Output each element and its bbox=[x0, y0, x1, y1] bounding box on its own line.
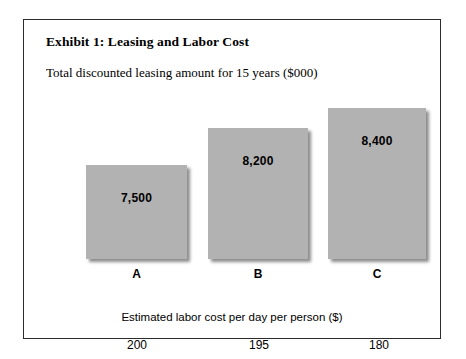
axis-value-c: 180 bbox=[334, 338, 424, 352]
axis-caption: Estimated labor cost per day per person … bbox=[24, 311, 440, 323]
bar-c: 8,400 bbox=[328, 108, 426, 259]
axis-value-a: 200 bbox=[92, 338, 182, 352]
exhibit-frame: Exhibit 1: Leasing and Labor Cost Total … bbox=[23, 19, 441, 339]
bar-value-a: 7,500 bbox=[86, 191, 187, 205]
bar-b: 8,200 bbox=[208, 128, 308, 259]
bar-chart: 7,500 A 8,200 B 8,400 C bbox=[24, 20, 440, 338]
bar-category-b: B bbox=[208, 267, 308, 281]
bar-value-c: 8,400 bbox=[328, 134, 426, 148]
bar-category-c: C bbox=[328, 267, 426, 281]
bar-category-a: A bbox=[86, 267, 187, 281]
axis-value-b: 195 bbox=[214, 338, 304, 352]
bar-value-b: 8,200 bbox=[208, 154, 308, 168]
bar-a: 7,500 bbox=[86, 165, 187, 259]
